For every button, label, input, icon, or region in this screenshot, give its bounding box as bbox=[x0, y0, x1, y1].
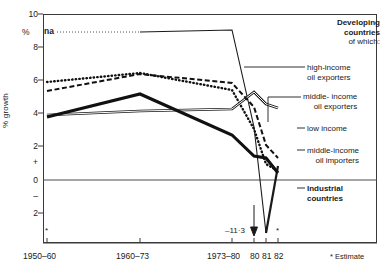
series-industrial-line bbox=[47, 94, 278, 173]
leader-mid-exporters bbox=[268, 97, 301, 122]
series-high-income-line-82 bbox=[266, 166, 278, 233]
series-industrial-countries bbox=[47, 94, 278, 173]
series-middle-income-oil-exporters bbox=[47, 73, 278, 171]
series-high-income-oil-exporters bbox=[57, 30, 278, 236]
series-mid-exporters-line bbox=[47, 73, 278, 171]
chart-root: % growth % na –11·3 * Estimate * * 10 8 … bbox=[0, 0, 384, 274]
axis-ticks bbox=[38, 14, 377, 243]
series-high-income-line bbox=[140, 30, 266, 233]
negative-peak-arrow bbox=[251, 205, 258, 236]
chart-vector-layer bbox=[0, 0, 384, 274]
